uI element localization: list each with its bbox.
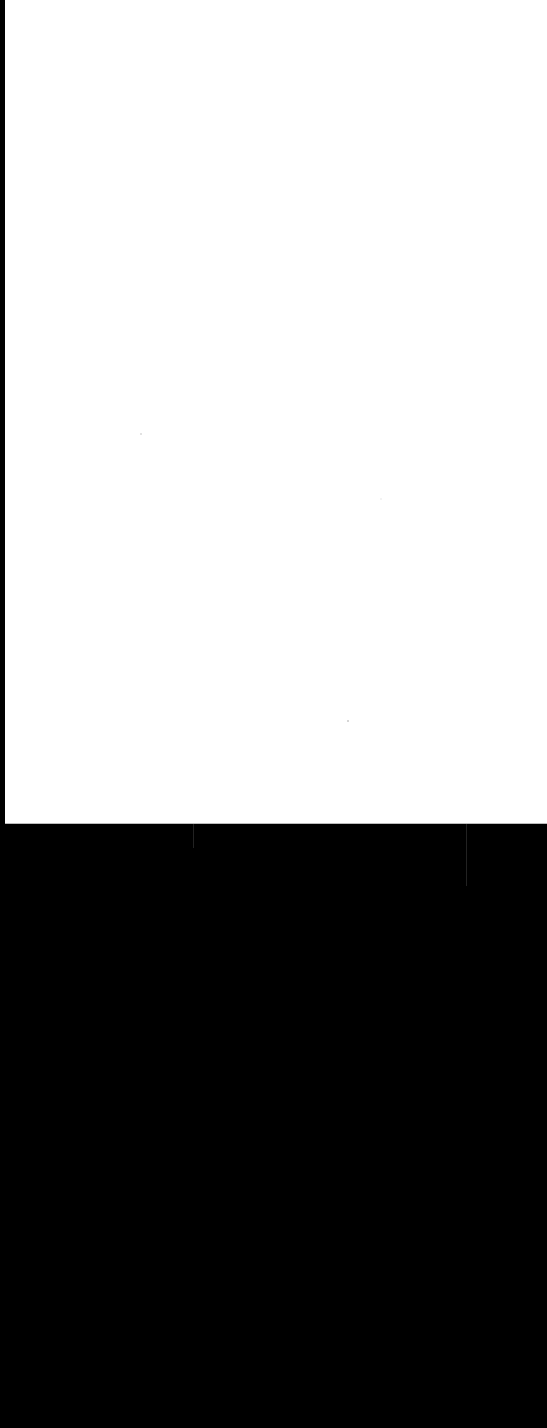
dust-speck — [380, 498, 382, 500]
blank-paper-sheet — [5, 0, 547, 824]
background-line — [193, 824, 194, 848]
dust-speck — [140, 433, 142, 435]
background-line — [466, 824, 467, 886]
dust-speck — [347, 720, 349, 722]
